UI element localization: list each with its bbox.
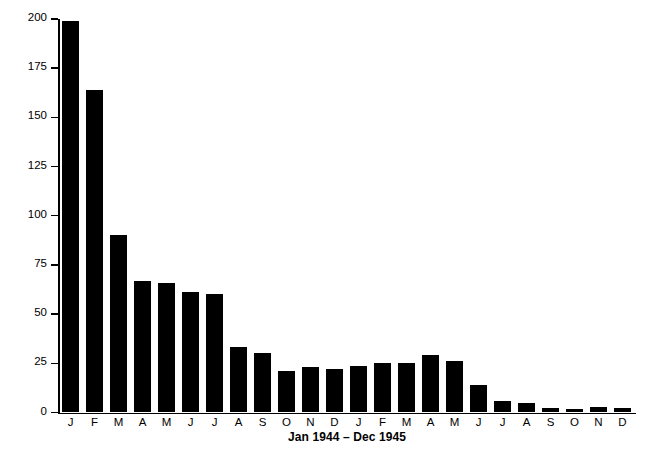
x-tick-label: A xyxy=(230,416,247,428)
x-tick-label: D xyxy=(614,416,631,428)
y-axis-line xyxy=(58,19,60,413)
bar xyxy=(518,403,535,413)
y-tick-mark xyxy=(51,67,58,68)
bar xyxy=(494,401,511,413)
y-tick-label: 100 xyxy=(14,208,47,220)
x-tick-label: J xyxy=(494,416,511,428)
x-tick-label: S xyxy=(254,416,271,428)
bar xyxy=(206,294,223,412)
x-tick-label: A xyxy=(518,416,535,428)
x-tick-label: J xyxy=(470,416,487,428)
bar xyxy=(350,366,367,412)
bar xyxy=(398,363,415,412)
x-tick-label: J xyxy=(350,416,367,428)
plot-area: 0255075100125150175200 JFMAMJJASONDJFMAM… xyxy=(58,14,636,414)
y-tick-label: 175 xyxy=(14,60,47,72)
y-tick-label: 0 xyxy=(14,405,47,417)
x-tick-label: D xyxy=(326,416,343,428)
y-tick-label: 200 xyxy=(14,11,47,23)
y-tick-label: 125 xyxy=(14,159,47,171)
bar xyxy=(62,21,79,413)
bar xyxy=(86,90,103,413)
bar xyxy=(326,369,343,412)
bar xyxy=(470,385,487,413)
bar xyxy=(158,283,175,413)
x-tick-label: J xyxy=(62,416,79,428)
y-tick-label: 75 xyxy=(14,257,47,269)
x-tick-label: A xyxy=(422,416,439,428)
x-tick-label: J xyxy=(182,416,199,428)
y-tick-mark xyxy=(51,117,58,118)
x-tick-label: S xyxy=(542,416,559,428)
y-tick-mark xyxy=(51,264,58,265)
y-tick-mark xyxy=(51,18,58,19)
x-axis-line xyxy=(58,413,636,415)
x-tick-label: M xyxy=(158,416,175,428)
x-tick-label: F xyxy=(86,416,103,428)
y-tick-label: 25 xyxy=(14,355,47,367)
x-tick-label: N xyxy=(302,416,319,428)
bar xyxy=(302,367,319,412)
y-tick-mark xyxy=(51,363,58,364)
x-tick-label: A xyxy=(134,416,151,428)
bar xyxy=(110,235,127,412)
y-tick-mark xyxy=(51,313,58,314)
y-tick-label: 150 xyxy=(14,109,47,121)
y-tick-label: 50 xyxy=(14,306,47,318)
bar xyxy=(590,407,607,413)
y-tick-mark xyxy=(51,166,58,167)
x-tick-label: M xyxy=(398,416,415,428)
x-tick-label: O xyxy=(278,416,295,428)
bar-chart-figure: # cases/annum/1,000 aver strength 025507… xyxy=(0,0,649,461)
bar xyxy=(230,347,247,412)
x-tick-label: O xyxy=(566,416,583,428)
x-axis-title: Jan 1944 – Dec 1945 xyxy=(58,430,636,444)
bar xyxy=(422,355,439,412)
bar xyxy=(542,408,559,412)
x-tick-label: M xyxy=(110,416,127,428)
x-tick-label: J xyxy=(206,416,223,428)
bar xyxy=(374,363,391,412)
bar xyxy=(134,281,151,413)
bar xyxy=(182,292,199,412)
bar xyxy=(278,371,295,412)
y-tick-mark xyxy=(51,412,58,413)
bar xyxy=(614,408,631,412)
x-tick-label: N xyxy=(590,416,607,428)
bar xyxy=(566,409,583,412)
bar xyxy=(254,353,271,412)
x-tick-label: F xyxy=(374,416,391,428)
x-tick-label: M xyxy=(446,416,463,428)
y-tick-mark xyxy=(51,215,58,216)
bar xyxy=(446,361,463,412)
